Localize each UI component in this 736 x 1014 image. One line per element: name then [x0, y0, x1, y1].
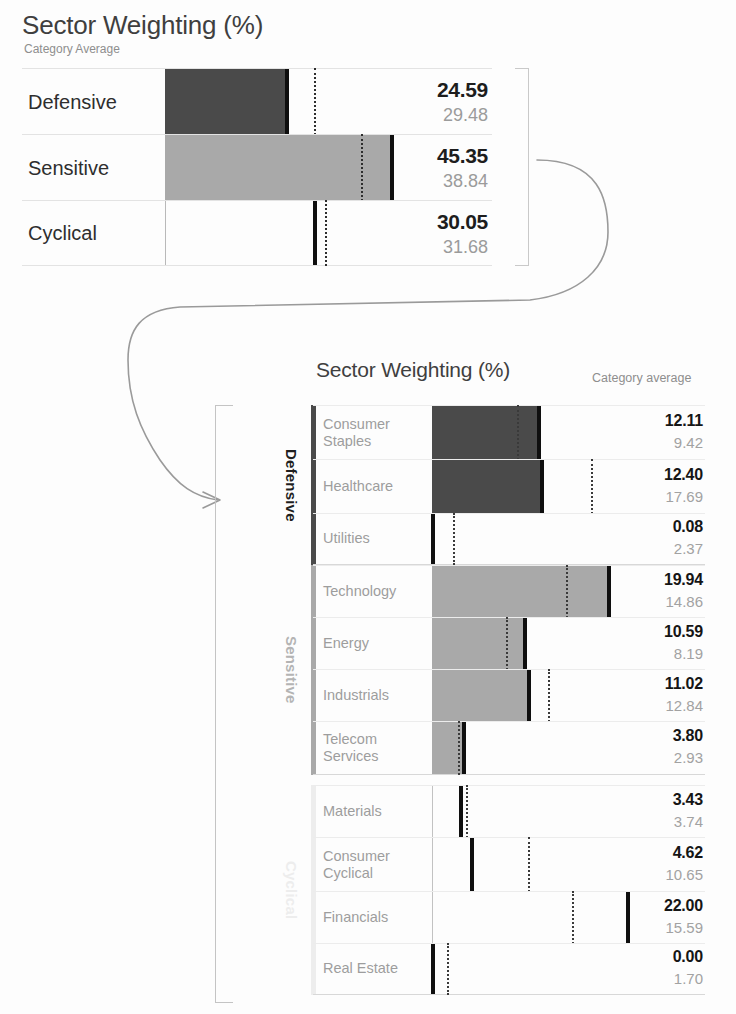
bottom-row-average: 10.65 — [665, 866, 703, 883]
top-chart-row: Sensitive45.3538.84 — [22, 134, 492, 200]
bottom-row-label: Consumer Cyclical — [323, 847, 390, 881]
bottom-chart-bracket — [215, 405, 233, 1003]
bottom-chart-row: Consumer Cyclical4.6210.65 — [313, 837, 705, 891]
bottom-row-label: Telecom Services — [323, 731, 379, 765]
bottom-value-bar — [432, 566, 611, 617]
top-chart-bracket — [515, 68, 529, 266]
sector-group-sensitive: SensitiveTechnology19.9414.86Energy10.59… — [280, 565, 705, 775]
bottom-row-average: 12.84 — [665, 697, 703, 714]
bottom-row-value: 12.11 — [665, 412, 703, 430]
top-chart-title: Sector Weighting (%) — [22, 10, 263, 41]
group-label-text: Cyclical — [283, 861, 300, 919]
bottom-row-label: Healthcare — [323, 478, 393, 495]
bottom-value-bar — [432, 722, 466, 774]
bottom-row-value: 0.08 — [673, 518, 703, 536]
bottom-row-average: 2.37 — [674, 540, 703, 557]
bottom-row-label: Technology — [323, 583, 396, 600]
group-label-text: Defensive — [283, 449, 300, 522]
bottom-row-label: Real Estate — [323, 960, 398, 977]
bottom-row-average: 14.86 — [665, 593, 703, 610]
bottom-chart-row: Utilities0.082.37 — [313, 513, 705, 565]
bottom-category-average-marker — [517, 405, 519, 460]
bottom-category-average-marker — [548, 669, 550, 722]
bottom-zero-axis — [432, 892, 433, 943]
top-row-value: 24.59 — [437, 78, 488, 102]
bottom-row-average: 3.74 — [674, 813, 703, 830]
bottom-value-marker — [607, 566, 611, 617]
bottom-chart-row: Materials3.433.74 — [313, 785, 705, 837]
sector-weighting-infographic: Sector Weighting (%) Category Average De… — [0, 0, 736, 1014]
bottom-value-marker — [431, 944, 435, 994]
bottom-row-value: 0.00 — [673, 948, 703, 966]
bottom-row-label: Consumer Staples — [323, 415, 390, 449]
sector-group-defensive: DefensiveConsumer Staples12.119.42Health… — [280, 405, 705, 565]
bottom-chart-row: Real Estate0.001.70 — [313, 943, 705, 995]
top-zero-axis — [165, 201, 166, 265]
top-chart-row: Defensive24.5929.48 — [22, 68, 492, 134]
bottom-row-value: 4.62 — [673, 844, 703, 862]
top-row-label: Defensive — [28, 90, 117, 113]
bottom-category-average-marker — [591, 459, 593, 514]
bottom-chart-row: Industrials11.0212.84 — [313, 669, 705, 721]
bottom-row-label: Utilities — [323, 530, 370, 547]
bottom-category-average-marker — [447, 943, 449, 995]
bottom-category-average-marker — [453, 513, 455, 565]
top-row-value: 45.35 — [437, 144, 488, 168]
bottom-category-average-marker — [528, 837, 530, 892]
bottom-value-bar — [432, 460, 544, 513]
group-label-cyclical: Cyclical — [278, 785, 304, 995]
sector-group-cyclical: CyclicalMaterials3.433.74Consumer Cyclic… — [280, 785, 705, 995]
bottom-row-value: 3.80 — [673, 727, 703, 745]
bottom-value-marker — [431, 514, 435, 564]
top-row-average: 38.84 — [443, 171, 488, 192]
bottom-chart-row: Energy10.598.19 — [313, 617, 705, 669]
bottom-value-marker — [462, 722, 466, 774]
bottom-category-average-marker — [458, 721, 460, 775]
bottom-value-marker — [459, 786, 463, 837]
bottom-category-average-marker — [466, 785, 468, 838]
bottom-zero-axis — [432, 786, 433, 837]
bottom-chart-row: Technology19.9414.86 — [313, 565, 705, 617]
bottom-value-bar — [432, 618, 527, 669]
top-chart: Sector Weighting (%) Category Average De… — [0, 0, 540, 290]
bottom-category-average-marker — [572, 891, 574, 944]
bottom-row-value: 11.02 — [665, 675, 703, 693]
bottom-category-average-marker — [506, 617, 508, 670]
top-value-marker — [313, 201, 317, 265]
bottom-row-average: 15.59 — [665, 919, 703, 936]
bottom-row-average: 2.93 — [674, 749, 703, 766]
top-category-average-marker — [361, 134, 363, 201]
bottom-row-label: Financials — [323, 909, 388, 926]
bottom-row-average: 1.70 — [674, 970, 703, 987]
top-row-average: 29.48 — [443, 105, 488, 126]
bottom-zero-axis — [432, 838, 433, 891]
top-chart-row: Cyclical30.0531.68 — [22, 200, 492, 266]
group-label-text: Sensitive — [283, 636, 300, 704]
bottom-value-bar — [432, 406, 541, 459]
bottom-row-value: 19.94 — [664, 571, 703, 589]
bottom-value-marker — [527, 670, 531, 721]
bottom-row-average: 8.19 — [674, 645, 703, 662]
bottom-chart-row: Financials22.0015.59 — [313, 891, 705, 943]
bottom-value-marker — [523, 618, 527, 669]
bottom-row-value: 22.00 — [664, 897, 703, 915]
group-rows: Technology19.9414.86Energy10.598.19Indus… — [313, 565, 705, 775]
bottom-row-value: 12.40 — [664, 466, 703, 484]
group-label-sensitive: Sensitive — [278, 565, 304, 775]
top-value-bar — [165, 135, 394, 200]
bottom-value-marker — [626, 892, 630, 943]
bottom-value-marker — [470, 838, 474, 891]
bottom-chart-row: Telecom Services3.802.93 — [313, 721, 705, 775]
bottom-row-label: Materials — [323, 803, 382, 820]
top-row-label: Cyclical — [28, 222, 97, 245]
top-value-marker — [390, 135, 394, 200]
top-row-value: 30.05 — [437, 210, 488, 234]
top-value-marker — [285, 69, 289, 134]
bottom-chart-subtitle: Category average — [592, 371, 691, 385]
top-chart-subtitle: Category Average — [24, 42, 120, 56]
bottom-chart-row: Consumer Staples12.119.42 — [313, 405, 705, 459]
bottom-value-bar — [432, 670, 531, 721]
bottom-row-label: Industrials — [323, 687, 389, 704]
top-category-average-marker — [325, 200, 327, 266]
bottom-chart-row: Healthcare12.4017.69 — [313, 459, 705, 513]
